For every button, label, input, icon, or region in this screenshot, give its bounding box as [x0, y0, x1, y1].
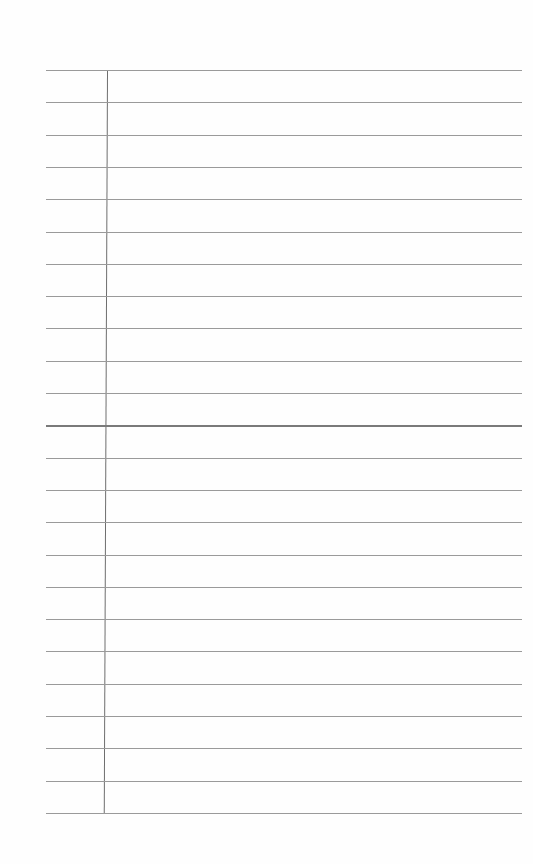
ruled-line — [46, 748, 522, 749]
ruled-line — [46, 716, 522, 717]
ruled-line — [46, 684, 522, 685]
ruled-line — [46, 361, 522, 362]
ruled-line — [46, 393, 522, 394]
ruled-line — [46, 102, 522, 103]
ruled-line — [46, 425, 522, 427]
ruled-line — [46, 328, 522, 329]
ruled-line — [46, 199, 522, 200]
ruled-line — [46, 296, 522, 297]
ruled-line — [46, 813, 522, 814]
ruled-line — [46, 232, 522, 233]
ruled-line — [46, 490, 522, 491]
ruled-line — [46, 167, 522, 168]
margin-line — [104, 71, 108, 814]
ruled-line — [46, 522, 522, 523]
ruled-line — [46, 70, 522, 71]
ruled-line — [46, 555, 522, 556]
ruled-line — [46, 587, 522, 588]
ruled-line — [46, 264, 522, 265]
ruled-line — [46, 781, 522, 782]
notebook-paper — [0, 0, 533, 864]
ruled-line — [46, 651, 522, 652]
ruled-line — [46, 619, 522, 620]
ruled-line — [46, 135, 522, 136]
ruled-line — [46, 458, 522, 459]
